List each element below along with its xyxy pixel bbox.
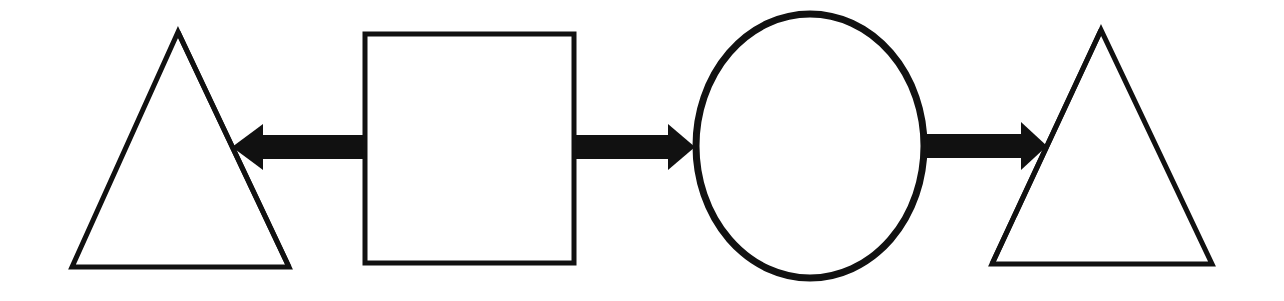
circle-node — [696, 14, 924, 278]
arrow-square-to-circle — [575, 124, 695, 170]
flow-diagram — [0, 0, 1284, 301]
arrow-square-to-triangle-left — [232, 124, 364, 170]
arrow-circle-to-triangle-right — [922, 122, 1047, 170]
diagram-canvas — [0, 0, 1284, 301]
square-node — [365, 34, 574, 263]
